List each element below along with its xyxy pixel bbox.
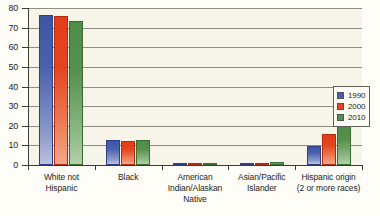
legend-label: 1990 <box>348 92 365 100</box>
y-tick-mark <box>22 126 28 127</box>
x-axis-line <box>28 165 362 166</box>
y-axis-line <box>28 8 29 166</box>
bar-group <box>240 8 284 165</box>
x-tick-mark <box>295 165 296 170</box>
y-tick-label: 10 <box>0 141 18 150</box>
bar-group <box>106 8 150 165</box>
y-tick-mark <box>22 28 28 29</box>
y-tick-label: 30 <box>0 102 18 111</box>
y-tick-mark <box>22 87 28 88</box>
x-tick-mark <box>162 165 163 170</box>
y-tick-label: 0 <box>0 161 18 170</box>
bar-2010-1[interactable] <box>136 140 150 165</box>
y-tick-mark <box>22 67 28 68</box>
chart-legend: 199020002010 <box>333 86 370 127</box>
x-tick-mark <box>228 165 229 170</box>
x-tick-label-line: Indian/Alaskan <box>158 183 233 194</box>
x-tick-label-line: Black <box>91 172 166 183</box>
legend-item-1990[interactable]: 1990 <box>337 90 365 101</box>
x-tick-label: Asian/PacificIslander <box>224 172 299 194</box>
x-tick-mark <box>95 165 96 170</box>
x-tick-label-line: Hispanic origin <box>291 172 366 183</box>
x-tick-label: Hispanic origin(2 or more races) <box>291 172 366 194</box>
bar-group <box>39 8 83 165</box>
bar-2000-4[interactable] <box>322 134 336 165</box>
bar-chart: 01020304050607080 White notHispanicBlack… <box>0 0 380 216</box>
bar-1990-0[interactable] <box>39 15 53 165</box>
x-tick-mark <box>28 165 29 170</box>
x-tick-label-line: Islander <box>224 183 299 194</box>
x-tick-label: Black <box>91 172 166 183</box>
legend-swatch-icon <box>337 114 344 121</box>
bar-2000-1[interactable] <box>121 141 135 165</box>
legend-item-2010[interactable]: 2010 <box>337 112 365 123</box>
x-tick-label-line: American <box>158 172 233 183</box>
y-tick-mark <box>22 106 28 107</box>
x-tick-mark <box>362 165 363 170</box>
y-tick-label: 20 <box>0 122 18 131</box>
bar-1990-4[interactable] <box>307 146 321 165</box>
y-tick-mark <box>22 47 28 48</box>
legend-swatch-icon <box>337 92 344 99</box>
y-tick-mark <box>22 8 28 9</box>
x-tick-label: White notHispanic <box>24 172 99 194</box>
x-tick-label-line: Native <box>158 194 233 205</box>
y-tick-label: 50 <box>0 63 18 72</box>
legend-swatch-icon <box>337 103 344 110</box>
x-tick-label: AmericanIndian/AlaskanNative <box>158 172 233 205</box>
x-tick-label-line: Hispanic <box>24 183 99 194</box>
y-tick-label: 60 <box>0 43 18 52</box>
x-tick-label-line: Asian/Pacific <box>224 172 299 183</box>
bar-2000-0[interactable] <box>54 16 68 165</box>
y-tick-label: 40 <box>0 83 18 92</box>
plot-area <box>28 8 362 165</box>
bar-2010-0[interactable] <box>69 21 83 165</box>
legend-item-2000[interactable]: 2000 <box>337 101 365 112</box>
legend-label: 2010 <box>348 114 365 122</box>
bar-1990-1[interactable] <box>106 140 120 165</box>
y-tick-label: 80 <box>0 4 18 13</box>
x-tick-label-line: White not <box>24 172 99 183</box>
bar-group <box>173 8 217 165</box>
legend-label: 2000 <box>348 103 365 111</box>
x-tick-label-line: (2 or more races) <box>291 183 366 194</box>
y-tick-mark <box>22 145 28 146</box>
bar-2010-4[interactable] <box>337 126 351 165</box>
y-tick-label: 70 <box>0 24 18 33</box>
